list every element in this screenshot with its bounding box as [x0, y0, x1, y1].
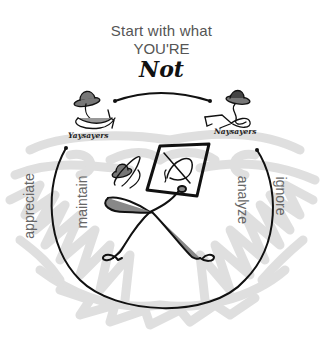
label-maintain: maintain [74, 176, 90, 229]
label-ignore: ignore [273, 177, 289, 216]
title-emphasis-not: Not [0, 56, 323, 82]
title-line-2: YOU'RE [0, 40, 323, 57]
label-analyze: analyze [235, 176, 251, 224]
label-appreciate: appreciate [21, 173, 37, 238]
diagram-canvas: Yaysayers Naysayers [0, 0, 323, 348]
title-line-1: Start with what [0, 22, 323, 39]
